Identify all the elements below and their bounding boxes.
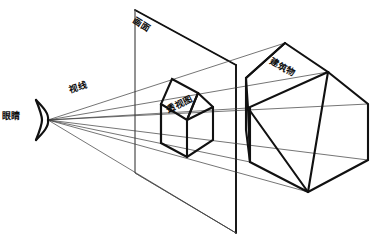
building-shape xyxy=(246,43,368,192)
diagram-canvas xyxy=(0,0,378,243)
sight-line-rays xyxy=(48,43,368,233)
perspective-diagram: 眼睛 视线 画面 透视图 建筑物 xyxy=(0,0,378,243)
eye-icon xyxy=(36,100,48,140)
picture-plane-shape xyxy=(135,10,236,233)
label-eye: 眼睛 xyxy=(2,112,21,121)
